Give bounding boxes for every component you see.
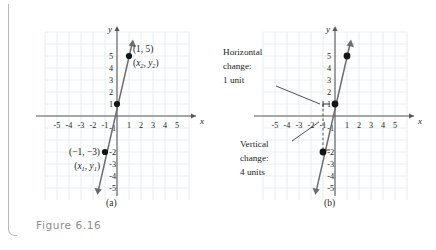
horizontal-change-line2: change: [223,61,252,71]
graph-b: x y -5 -4 -3 -2 -1 1 2 3 4 5 5 4 3 2 1 -… [218,0,436,200]
x-tick-a-2: 2 [139,121,143,130]
horizontal-change-line1: Horizontal [223,47,263,57]
y-tick-a--3: -3 [109,160,116,169]
x-tick-b-3: 3 [369,121,373,130]
y-tick-labels-b: 5 4 3 2 1 -1 -2 -3 -4 -5 [327,52,334,193]
point-sym-label-2: (x2, y2) [133,58,159,69]
figure-caption: Figure 6.16 [36,219,101,231]
x-tick-b-1: 1 [345,121,349,130]
x-tick-a-5: 5 [175,121,179,130]
vertical-change-line2: change: [240,153,269,163]
vertical-change-line1: Vertical [240,139,269,149]
y-tick-b-2: 2 [327,88,331,97]
x-tick-labels-b: -5 -4 -3 -2 -1 1 2 3 4 5 [272,121,397,130]
x-tick-b-5: 5 [393,121,397,130]
y-tick-a--4: -4 [109,172,116,181]
y-axis-arrow-b [332,26,337,31]
x-tick-a--2: -2 [90,121,97,130]
y-tick-b-3: 3 [327,76,331,85]
y-tick-a-3: 3 [109,76,113,85]
point-0-1-a [114,101,120,107]
y-axis-name-b: y [325,24,330,34]
x-tick-a-3: 3 [151,121,155,130]
x-tick-a-1: 1 [127,121,131,130]
vertical-change-line3: 4 units [240,167,265,177]
x-tick-b--5: -5 [272,121,279,130]
y-tick-b--5: -5 [327,184,334,193]
line-arrow-up-b [347,40,354,48]
x-axis-arrow-a [191,113,196,118]
y-tick-a-2: 2 [109,88,113,97]
x-tick-a--3: -3 [78,121,85,130]
x-axis-arrow-b [409,113,414,118]
x-tick-a--4: -4 [66,121,73,130]
point-label--1--3: (−1, −3) [69,147,100,158]
point-label-1-5: (1, 5) [133,44,153,55]
vertical-change-annotation: Vertical change: 4 units [240,122,319,177]
point--1--3-a [102,149,108,155]
y-tick-b-5: 5 [327,52,331,61]
point-1-5-b [344,53,351,60]
point-1-5-a [126,53,132,59]
line-arrow-down-b [312,188,319,195]
y-tick-b--4: -4 [327,172,334,181]
x-tick-a--1: -1 [102,121,109,130]
y-tick-a-4: 4 [109,64,113,73]
y-axis-arrow-a [114,26,119,31]
point-0-1-b [332,101,339,108]
x-tick-b-2: 2 [357,121,361,130]
point--1--3-b [320,149,327,156]
panel-a-label: (a) [106,198,117,208]
y-tick-b--3: -3 [327,160,334,169]
line-arrow-down-a [94,188,101,195]
x-tick-a--5: -5 [54,121,61,130]
x-tick-b-4: 4 [381,121,385,130]
x-tick-b--3: -3 [296,121,303,130]
y-tick-b--2: -2 [327,148,334,157]
point-sym-label-1: (x1, y1) [74,161,100,172]
y-tick-a--5: -5 [109,184,116,193]
x-axis-name-b: x [417,116,422,126]
y-tick-a-1: 1 [109,100,113,109]
y-tick-a--2: -2 [109,148,116,157]
x-tick-labels-a: -5 -4 -3 -2 -1 1 2 3 4 5 [54,121,179,130]
panel-b-label: (b) [324,198,335,208]
figure-root: x y -5 -4 -3 -2 -1 1 2 3 4 5 5 4 3 2 [0,0,436,250]
y-tick-labels-a: 5 4 3 2 1 -1 -2 -3 -4 -5 [109,52,116,193]
x-tick-b--4: -4 [284,121,291,130]
horizontal-change-line3: 1 unit [223,75,245,85]
horizontal-change-leader [276,86,320,104]
y-axis-name-a: y [107,24,112,34]
graph-a: x y -5 -4 -3 -2 -1 1 2 3 4 5 5 4 3 2 [0,0,218,200]
x-tick-a-4: 4 [163,121,167,130]
y-tick-a-5: 5 [109,52,113,61]
y-tick-b-4: 4 [327,64,331,73]
x-axis-name-a: x [199,116,204,126]
